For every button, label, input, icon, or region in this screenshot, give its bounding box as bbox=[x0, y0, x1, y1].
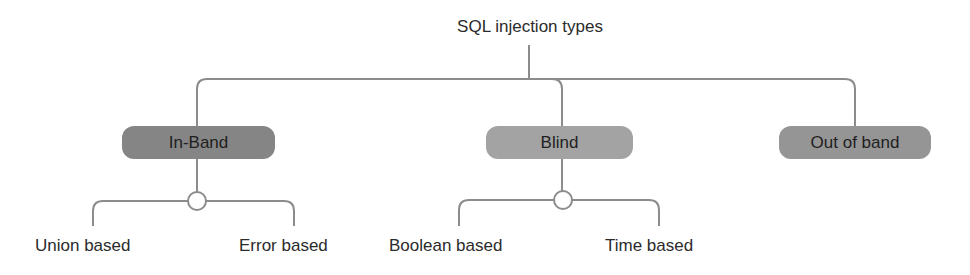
union-bracket-line bbox=[93, 201, 188, 226]
in-band-junction-node bbox=[188, 192, 206, 210]
boolean-bracket-line bbox=[459, 200, 554, 226]
error-bracket-line bbox=[206, 201, 294, 226]
category-in-band: In-Band bbox=[122, 126, 275, 159]
category-out-of-band: Out of band bbox=[779, 126, 931, 159]
root-branch-bar bbox=[197, 79, 855, 126]
time-bracket-line bbox=[572, 200, 659, 226]
sql-injection-types-diagram: SQL injection types In-Band Blind Out of… bbox=[0, 0, 970, 275]
leaf-boolean-based: Boolean based bbox=[389, 236, 502, 256]
blind-junction-node bbox=[554, 191, 572, 209]
leaf-union-based: Union based bbox=[35, 236, 130, 256]
blind-branch-line bbox=[552, 79, 562, 126]
leaf-error-based: Error based bbox=[239, 236, 328, 256]
leaf-time-based: Time based bbox=[605, 236, 693, 256]
diagram-title: SQL injection types bbox=[430, 17, 630, 37]
category-blind: Blind bbox=[486, 126, 633, 159]
